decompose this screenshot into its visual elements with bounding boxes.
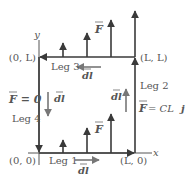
leg-4-label: Leg 4 xyxy=(12,113,41,124)
corner-origin: (0, 0) xyxy=(9,155,36,166)
force-label-left-edge: F = 0 xyxy=(8,93,42,106)
x-axis-label: x xyxy=(153,147,159,158)
dl-label-leg-3: dl xyxy=(82,70,93,81)
closed-path-diagram: y x (0, L) (L, L) (0, 0) (L, 0) Leg 1 Le… xyxy=(0,0,191,186)
force-label-bottom: F xyxy=(94,123,104,136)
force-label-right-edge: F xyxy=(138,102,148,115)
leg-3-label: Leg 3 xyxy=(51,61,80,72)
force-expression-right-edge: = CL xyxy=(148,103,174,114)
force-label-top: F xyxy=(94,23,104,36)
leg-2-label: Leg 2 xyxy=(140,80,169,91)
leg-1-label: Leg 1 xyxy=(49,155,78,166)
y-axis-label: y xyxy=(33,29,40,40)
dl-label-leg-4: dl xyxy=(54,93,65,104)
corner-top-right: (L, L) xyxy=(140,52,168,63)
corner-top-left: (0, L) xyxy=(9,52,36,63)
dl-label-leg-2: dl xyxy=(111,91,122,102)
unit-vector-j: j xyxy=(179,103,185,114)
dl-label-leg-1: dl xyxy=(78,165,89,176)
corner-bottom-right: (L, 0) xyxy=(120,155,147,166)
